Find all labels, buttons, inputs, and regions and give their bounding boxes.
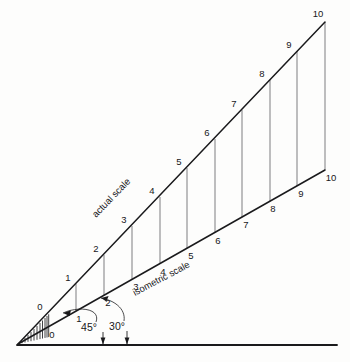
angle-label-30: 30°	[109, 320, 125, 332]
isometric-scale-diagram: 0 1 2 3 4 5 6 7 8 9 10 0 1 2 3 4 5 6 7 8…	[0, 0, 350, 362]
actual-tick-9: 9	[286, 39, 291, 50]
isometric-tick-6: 6	[215, 235, 220, 246]
isometric-tick-5: 5	[188, 250, 193, 261]
isometric-tick-0: 0	[49, 329, 54, 340]
actual-tick-1: 1	[65, 272, 70, 283]
diagram-canvas: 0 1 2 3 4 5 6 7 8 9 10 0 1 2 3 4 5 6 7 8…	[0, 0, 350, 362]
isometric-tick-10: 10	[326, 172, 337, 183]
actual-tick-7: 7	[231, 98, 236, 109]
actual-tick-2: 2	[93, 243, 98, 254]
actual-scale-caption: actual scale	[90, 176, 133, 220]
isometric-tick-8: 8	[270, 203, 275, 214]
actual-tick-5: 5	[176, 156, 181, 167]
actual-tick-10: 10	[313, 8, 324, 19]
actual-tick-6: 6	[204, 127, 209, 138]
angle-label-45: 45°	[81, 321, 97, 333]
actual-scale-line	[18, 22, 325, 344]
projector-lines	[76, 22, 325, 311]
actual-tick-8: 8	[259, 68, 264, 79]
actual-tick-0: 0	[37, 301, 42, 312]
isometric-scale-line	[18, 170, 325, 344]
angle-marker-45: 45°	[63, 309, 105, 345]
isometric-tick-9: 9	[298, 188, 303, 199]
actual-tick-3: 3	[121, 214, 126, 225]
isometric-scale-caption: isometric scale	[131, 259, 192, 298]
isometric-scale-tick-labels: 0 1 2 3 4 5 6 7 8 9 10	[49, 172, 336, 340]
actual-tick-4: 4	[149, 185, 154, 196]
isometric-tick-7: 7	[243, 219, 248, 230]
